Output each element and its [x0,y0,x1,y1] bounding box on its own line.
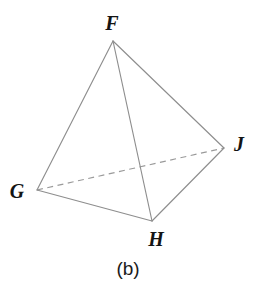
edge-g-h [37,190,152,221]
edge-g-j-hidden [37,148,224,190]
figure-caption: (b) [116,258,139,279]
edge-h-j [152,148,224,221]
tetrahedron-diagram: F G H J (b) [0,0,254,293]
figure-container: F G H J (b) [0,0,254,293]
edge-f-j [113,41,224,148]
vertex-label-f: F [104,12,119,34]
vertex-label-j: J [233,133,245,155]
vertex-label-h: H [147,228,165,250]
edge-f-h [113,41,152,221]
vertex-label-g: G [10,180,25,202]
edge-f-g [37,41,113,190]
